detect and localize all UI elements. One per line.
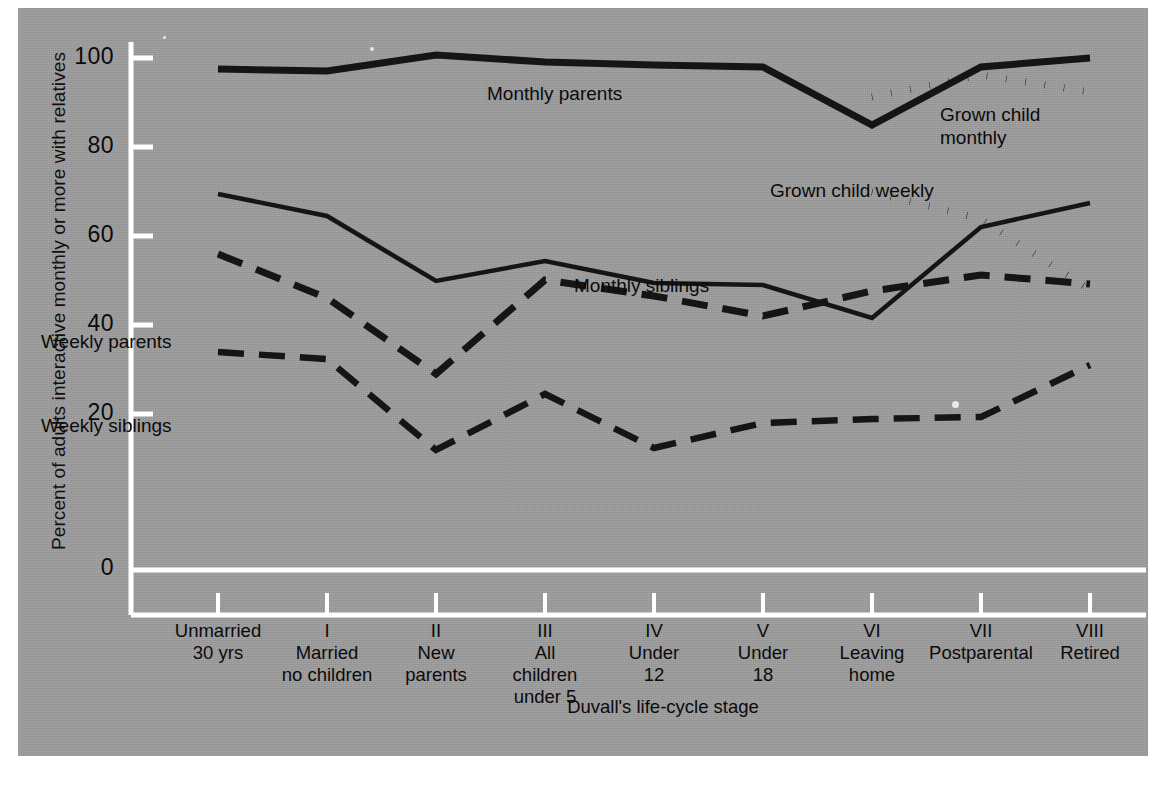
print-speck (370, 47, 374, 51)
annotation-weekly-siblings: Weekly siblings (41, 414, 172, 437)
y-axis-ticks (131, 58, 153, 414)
x-axis-title: Duvall's life-cycle stage (198, 696, 1128, 718)
annotation-weekly-parents: Weekly parents (41, 330, 172, 353)
series-line-weekly-parents (218, 254, 1090, 374)
annotation-monthly-siblings: Monthly siblings (574, 274, 709, 297)
annotation-grown-child-monthly: Grown child monthly (940, 103, 1040, 149)
y-tick-label-100: 100 (54, 43, 114, 70)
y-tick-label-0: 0 (54, 554, 114, 581)
y-tick-label-80: 80 (54, 132, 114, 159)
chart-figure: Percent of adults interactive monthly or… (18, 8, 1148, 756)
print-speck (952, 401, 959, 408)
series-line-weekly-siblings (218, 352, 1090, 450)
series-line-grown-child-monthly (872, 75, 1090, 97)
annotation-monthly-parents: Monthly parents (487, 82, 622, 105)
print-speck (163, 36, 166, 39)
x-axis-ticks (218, 593, 1090, 615)
annotation-grown-child-weekly: Grown child weekly (770, 179, 934, 202)
x-tick-label-viii-retired: VIII Retired (1025, 620, 1148, 664)
y-tick-label-60: 60 (54, 221, 114, 248)
y-axis-title: Percent of adults interactive monthly or… (48, 41, 70, 561)
